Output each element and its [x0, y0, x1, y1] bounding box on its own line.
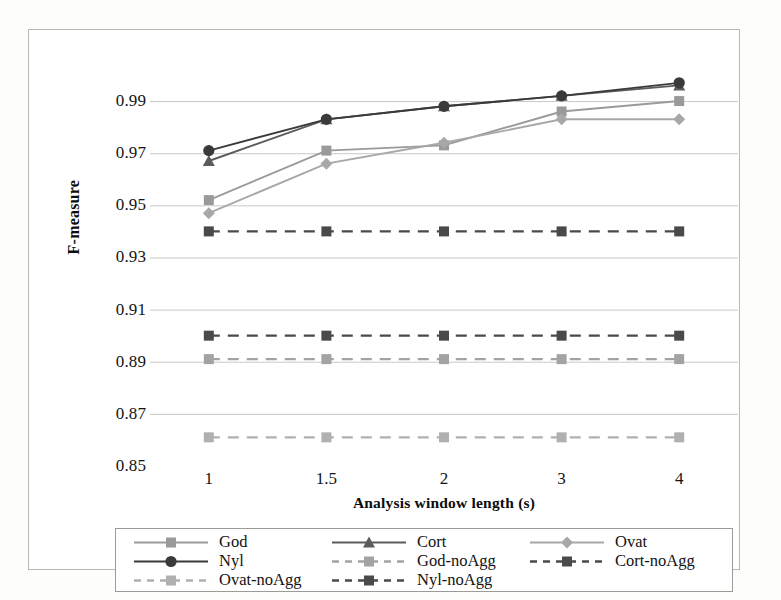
plot-svg [150, 75, 738, 466]
legend-item-nyl[interactable]: Nyl [132, 551, 330, 570]
legend-item-ovat[interactable]: Ovat [528, 532, 726, 551]
legend-swatch-svg [330, 536, 408, 549]
legend-swatch-icon [528, 535, 606, 548]
plot-area [150, 75, 738, 466]
marker-square [674, 331, 684, 341]
marker-square [674, 226, 684, 236]
series-ovat-noagg [204, 432, 684, 442]
chart-page: 0.990.970.950.930.910.890.870.85 11.5234… [0, 0, 781, 600]
marker-square [674, 96, 684, 106]
marker-square [674, 432, 684, 442]
marker-square [364, 557, 374, 567]
chart-legend: GodNylOvat-noAggCortGod-noAggNyl-noAggOv… [115, 528, 733, 592]
legend-swatch-svg [330, 555, 408, 568]
y-axis-title: F-measure [65, 180, 87, 254]
figure-frame: 0.990.970.950.930.910.890.870.85 11.5234… [28, 29, 740, 570]
marker-circle [438, 101, 449, 112]
marker-square [439, 432, 449, 442]
legend-label: Ovat [615, 533, 647, 550]
y-axis-tick: 0.97 [88, 144, 146, 161]
legend-swatch-svg [132, 555, 210, 568]
legend-label: Nyl [219, 552, 244, 569]
marker-circle [321, 114, 332, 125]
marker-square [557, 331, 567, 341]
marker-square [674, 354, 684, 364]
legend-swatch-svg [132, 574, 210, 587]
x-axis-tick: 2 [440, 470, 449, 488]
y-axis-tick: 0.87 [88, 405, 146, 422]
series-nyl-noagg [204, 226, 684, 236]
series-line [209, 119, 679, 213]
marker-square [204, 354, 214, 364]
legend-swatch-svg [528, 555, 606, 568]
y-axis-tick: 0.95 [88, 196, 146, 213]
series-ovat [203, 113, 685, 219]
marker-diamond [561, 537, 573, 549]
marker-square [321, 226, 331, 236]
legend-label: God-noAgg [417, 552, 496, 569]
y-axis-tick: 0.89 [88, 353, 146, 370]
legend-swatch-icon [132, 535, 210, 548]
marker-square [439, 354, 449, 364]
marker-square [204, 432, 214, 442]
marker-square [439, 331, 449, 341]
legend-swatch-icon [132, 554, 210, 567]
series-cort [203, 79, 685, 166]
y-axis-tick: 0.85 [88, 457, 146, 474]
series-god [204, 96, 684, 205]
marker-square [562, 557, 572, 567]
y-axis-tick: 0.99 [88, 92, 146, 109]
legend-item-god[interactable]: God [132, 532, 330, 551]
marker-square [321, 354, 331, 364]
series-line [209, 101, 679, 200]
marker-square [557, 432, 567, 442]
marker-square [557, 226, 567, 236]
legend-item-ovat-noagg[interactable]: Ovat-noAgg [132, 570, 330, 589]
x-axis-tick-labels: 11.5234 [150, 470, 738, 494]
legend-label: God [219, 533, 247, 550]
marker-square [321, 146, 331, 156]
marker-circle [674, 77, 685, 88]
gridlines [150, 102, 738, 466]
legend-label: Cort [417, 533, 446, 550]
marker-square [204, 195, 214, 205]
legend-swatch-icon [528, 554, 606, 567]
legend-swatch-icon [330, 535, 408, 548]
legend-grid: GodNylOvat-noAggCortGod-noAggNyl-noAggOv… [116, 529, 732, 591]
legend-label: Ovat-noAgg [219, 571, 301, 588]
legend-swatch-svg [132, 536, 210, 549]
x-axis-tick: 1.5 [316, 470, 337, 488]
marker-square [321, 432, 331, 442]
legend-swatch-icon [330, 554, 408, 567]
marker-square [166, 576, 176, 586]
marker-circle [556, 90, 567, 101]
marker-diamond [320, 158, 332, 170]
legend-item-nyl-noagg[interactable]: Nyl-noAgg [330, 570, 528, 589]
legend-label: Nyl-noAgg [417, 571, 492, 588]
marker-square [439, 226, 449, 236]
legend-swatch-svg [528, 536, 606, 549]
y-axis-tick: 0.93 [88, 248, 146, 265]
x-axis-title: Analysis window length (s) [150, 494, 738, 512]
y-axis-tick: 0.91 [88, 301, 146, 318]
marker-square [321, 331, 331, 341]
legend-swatch-icon [132, 573, 210, 586]
marker-circle [165, 556, 176, 567]
series-cort-noagg [204, 331, 684, 341]
legend-swatch-icon [330, 573, 408, 586]
legend-label: Cort-noAgg [615, 552, 695, 569]
y-axis-tick-labels: 0.990.970.950.930.910.890.870.85 [84, 75, 146, 466]
x-axis-tick: 1 [205, 470, 214, 488]
marker-square [166, 538, 176, 548]
marker-diamond [203, 207, 215, 219]
legend-item-god-noagg[interactable]: God-noAgg [330, 551, 528, 570]
legend-swatch-svg [330, 574, 408, 587]
marker-square [364, 576, 374, 586]
marker-square [557, 354, 567, 364]
legend-item-cort[interactable]: Cort [330, 532, 528, 551]
marker-circle [203, 145, 214, 156]
x-axis-tick: 3 [557, 470, 566, 488]
legend-item-cort-noagg[interactable]: Cort-noAgg [528, 551, 726, 570]
marker-diamond [673, 113, 685, 125]
marker-square [204, 331, 214, 341]
